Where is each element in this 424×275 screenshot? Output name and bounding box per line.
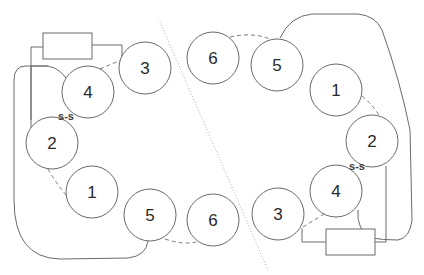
diagram-canvas: 3 4 2 1 5 6 s-s	[0, 0, 424, 275]
left-node-1: 1	[66, 166, 118, 218]
left-dashed-5-6	[165, 239, 196, 243]
svg-text:2: 2	[367, 132, 376, 151]
svg-text:5: 5	[145, 206, 154, 225]
right-dashed-6-5	[230, 35, 270, 39]
left-box-link-left	[31, 47, 43, 120]
left-disulfide-label: s-s	[58, 110, 74, 122]
right-dashed-1-2	[362, 96, 380, 117]
left-box-link-right	[92, 45, 122, 58]
svg-text:3: 3	[273, 205, 282, 224]
left-box	[43, 33, 92, 59]
right-box-link-left	[302, 228, 326, 242]
svg-text:2: 2	[47, 134, 56, 153]
left-node-6: 6	[187, 194, 239, 246]
left-node-2: 2	[26, 117, 78, 169]
right-node-5: 5	[251, 39, 303, 91]
right-dashed-3-4	[303, 214, 324, 227]
svg-text:3: 3	[140, 59, 149, 78]
right-node-4: 4	[310, 165, 362, 217]
svg-text:4: 4	[331, 182, 340, 201]
right-node-6: 6	[187, 32, 239, 84]
right-node-3: 3	[252, 188, 304, 240]
svg-text:6: 6	[208, 49, 217, 68]
left-dashed-4-3	[100, 60, 121, 69]
svg-text:1: 1	[87, 183, 96, 202]
right-node-1: 1	[310, 64, 362, 116]
svg-text:4: 4	[83, 83, 92, 102]
svg-text:5: 5	[272, 56, 281, 75]
svg-text:1: 1	[331, 81, 340, 100]
left-dashed-2-1	[48, 169, 66, 195]
right-box-link-right	[375, 166, 386, 242]
svg-text:6: 6	[208, 211, 217, 230]
left-node-5: 5	[124, 189, 176, 241]
left-node-3: 3	[119, 42, 171, 94]
right-disulfide-label: s-s	[349, 160, 365, 172]
right-box	[326, 229, 375, 255]
left-arc-to-4	[26, 66, 66, 78]
